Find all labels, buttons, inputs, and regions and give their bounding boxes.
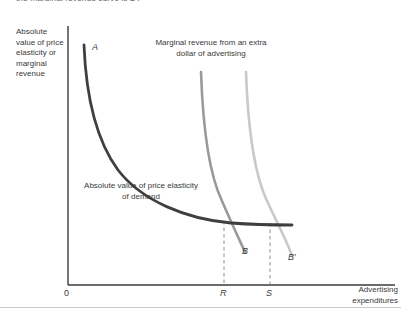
curve-b-prime <box>246 72 292 256</box>
x-tick-zero: 0 <box>64 288 69 298</box>
axis-group <box>68 26 395 285</box>
x-tick-r: R <box>220 288 227 298</box>
curve-b <box>201 72 245 252</box>
y-axis-title: Absolute value of price elasticity or ma… <box>16 27 68 80</box>
x-tick-s: S <box>266 288 272 298</box>
marginal-revenue-annotation: Marginal revenue from an extra dollar of… <box>152 38 270 59</box>
curve-label-a: A <box>92 42 98 52</box>
price-elasticity-annotation: Absolute value of price elasticity of de… <box>82 181 200 202</box>
curve-label-b: B <box>242 246 248 256</box>
curve-label-b-prime: B′ <box>288 252 296 262</box>
figure-container: the marginal revenue curve is B′. Absolu… <box>0 0 401 318</box>
x-axis-title: Advertising expenditures <box>330 285 398 306</box>
figure-bottom-rule <box>0 307 401 308</box>
